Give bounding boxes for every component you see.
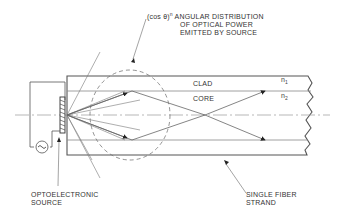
source-label: OPTOELECTRONIC SOURCE <box>31 191 99 207</box>
optoelectronic-source <box>60 97 65 133</box>
angular-line2: OF OPTICAL POWER <box>147 21 253 28</box>
pointer-arrow <box>224 160 229 165</box>
clad-label: CLAD <box>193 80 212 88</box>
angular-prefix: (cos θ) <box>147 13 170 20</box>
leader-lines <box>58 19 246 193</box>
core-clad-boundaries <box>67 91 311 140</box>
angular-line1: ANGULAR DISTRIBUTION <box>175 13 264 20</box>
n1-label: n1 <box>281 76 288 85</box>
pointer-arrow <box>57 137 61 142</box>
fiber-label: SINGLE FIBER STRAND <box>246 191 297 207</box>
angular-distribution-label: (cos θ)n ANGULAR DISTRIBUTION OF OPTICAL… <box>147 10 264 37</box>
fiber-strand <box>67 76 313 155</box>
core-label: CORE <box>193 95 214 103</box>
angular-line3: EMITTED BY SOURCE <box>147 29 257 36</box>
n2-label: n2 <box>281 92 288 101</box>
guided-rays <box>67 91 265 140</box>
angular-exponent: n <box>170 11 173 17</box>
